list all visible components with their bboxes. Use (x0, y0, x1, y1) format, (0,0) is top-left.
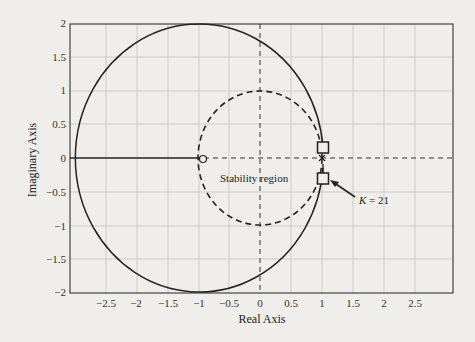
svg-text:0.5: 0.5 (52, 118, 66, 130)
root-locus-chart: 2 1.5 1 0.5 0 −0.5 −1 −1.5 −2 −2.5 −2 −1… (0, 0, 475, 342)
svg-text:−2: −2 (130, 297, 142, 309)
y-axis-label: Imaginary Axis (25, 123, 39, 198)
svg-text:−2: −2 (54, 286, 66, 298)
y-tick-labels: 2 1.5 1 0.5 0 −0.5 −1 −1.5 −2 (46, 17, 66, 298)
svg-text:2.5: 2.5 (408, 297, 422, 309)
svg-text:0.5: 0.5 (284, 297, 298, 309)
k21-marker-upper (318, 142, 329, 153)
svg-text:1: 1 (61, 84, 67, 96)
zero-marker (200, 156, 207, 163)
k-value: = 21 (366, 194, 389, 206)
k-gain-label: K = 21 (358, 194, 389, 206)
svg-text:0: 0 (61, 152, 67, 164)
svg-text:−1: −1 (193, 297, 205, 309)
x-tick-labels: −2.5 −2 −1.5 −1 −0.5 0 0.5 1 1.5 2 2.5 (96, 297, 422, 309)
svg-text:1.5: 1.5 (346, 297, 360, 309)
k21-marker-lower (318, 173, 329, 184)
svg-text:1.5: 1.5 (52, 51, 66, 63)
svg-text:−1.5: −1.5 (46, 253, 66, 265)
k21-arrow (330, 180, 355, 197)
svg-text:−0.5: −0.5 (46, 186, 66, 198)
svg-text:−1: −1 (54, 220, 66, 232)
svg-text:1: 1 (319, 297, 325, 309)
svg-text:2: 2 (381, 297, 387, 309)
stability-region-label: Stability region (220, 172, 289, 184)
svg-text:0: 0 (257, 297, 263, 309)
x-axis-label: Real Axis (239, 312, 286, 326)
svg-text:−2.5: −2.5 (96, 297, 116, 309)
svg-text:2: 2 (61, 17, 67, 29)
svg-text:−1.5: −1.5 (158, 297, 178, 309)
svg-text:−0.5: −0.5 (219, 297, 239, 309)
